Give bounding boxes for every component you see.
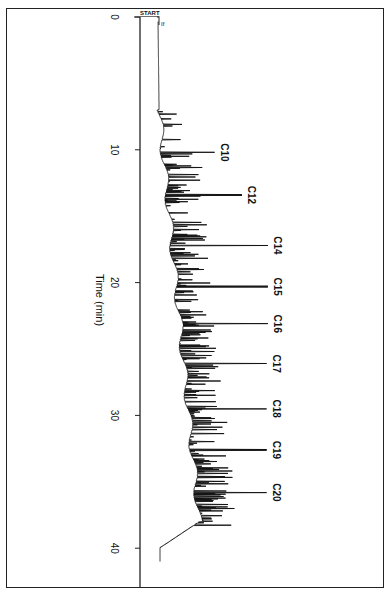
- peak-label-c15: C15: [272, 277, 283, 296]
- peak-labels: C10C12C14C15C16C17C18C19C20: [219, 143, 283, 502]
- chromatogram-chart: 010203040 Time (min) START If C10C12C14C…: [0, 0, 391, 596]
- tick-label: 0: [109, 14, 120, 20]
- tick-label: 20: [109, 277, 120, 289]
- peak-label-c20: C20: [271, 483, 282, 502]
- tick-label: 10: [109, 144, 120, 156]
- axis-title: Time (min): [94, 274, 106, 326]
- axis-ticks: [135, 17, 140, 548]
- tick-label: 30: [109, 410, 120, 422]
- peak-label-c17: C17: [271, 354, 282, 373]
- axis-tick-labels: 010203040: [109, 14, 120, 554]
- peak-label-c19: C19: [271, 441, 282, 460]
- peak-label-c12: C12: [246, 186, 257, 205]
- peak-label-c10: C10: [219, 143, 230, 162]
- start-label: START: [140, 10, 160, 16]
- peak-label-c18: C18: [271, 400, 282, 419]
- peak-label-c16: C16: [272, 315, 283, 334]
- inject-label: If: [161, 21, 165, 27]
- peak-label-c14: C14: [272, 236, 283, 255]
- tick-label: 40: [109, 543, 120, 555]
- chromatogram-trace: [157, 22, 268, 562]
